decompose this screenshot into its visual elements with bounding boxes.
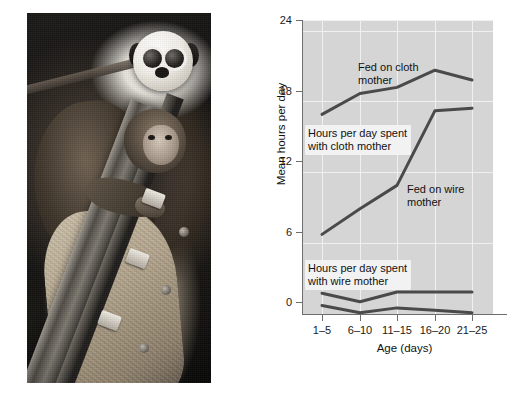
- x-tick-mark: [322, 315, 323, 321]
- x-axis-title: Age (days): [302, 342, 507, 354]
- line-chart: Fed on cloth mother Hours per day spent …: [255, 0, 515, 394]
- y-tick-label: 24: [280, 15, 292, 26]
- annotation-fed-on-cloth-mother: Fed on cloth mother: [358, 61, 419, 87]
- y-tick-mark: [296, 232, 302, 233]
- surrogate-mask-head: [133, 31, 193, 91]
- x-tick-mark: [360, 315, 361, 321]
- infant-monkey-face: [143, 125, 179, 165]
- series-line: [322, 305, 472, 312]
- series-line: [322, 292, 472, 302]
- y-tick-mark: [296, 302, 302, 303]
- infant-eye-left: [148, 135, 155, 140]
- cage-bar: [27, 59, 136, 97]
- x-tick-label: 21–25: [457, 324, 488, 336]
- mask-nose: [155, 67, 169, 78]
- mask-eye-left: [143, 49, 162, 68]
- x-tick-mark: [472, 315, 473, 321]
- y-tick-label: 6: [286, 227, 292, 238]
- annotation-hours-with-cloth-mother: Hours per day spent with cloth mother: [305, 125, 411, 155]
- x-tick-label: 11–15: [382, 324, 412, 336]
- x-tick-label: 1–5: [313, 324, 331, 336]
- y-tick-mark: [296, 91, 302, 92]
- x-tick-mark: [435, 315, 436, 321]
- annotation-hours-with-wire-mother: Hours per day spent with wire mother: [305, 260, 411, 290]
- y-axis-title: Mean hours per day: [275, 64, 287, 204]
- apparatus-bolt: [161, 285, 171, 295]
- apparatus-bolt: [139, 343, 149, 353]
- x-tick-label: 16–20: [420, 324, 451, 336]
- photo-canvas: [27, 13, 211, 383]
- y-axis-line: [302, 20, 303, 315]
- infant-eye-right: [165, 135, 172, 140]
- y-tick-label: 0: [286, 297, 292, 308]
- y-tick-mark: [296, 20, 302, 21]
- x-axis-line: [302, 314, 507, 315]
- experiment-photograph: [27, 13, 211, 383]
- y-tick-mark: [296, 161, 302, 162]
- plot-area: Fed on cloth mother Hours per day spent …: [303, 20, 493, 314]
- mask-eye-right: [165, 49, 184, 68]
- apparatus-bolt: [179, 227, 189, 237]
- x-tick-label: 6–10: [348, 324, 372, 336]
- x-tick-mark: [397, 315, 398, 321]
- annotation-fed-on-wire-mother: Fed on wire mother: [407, 183, 464, 209]
